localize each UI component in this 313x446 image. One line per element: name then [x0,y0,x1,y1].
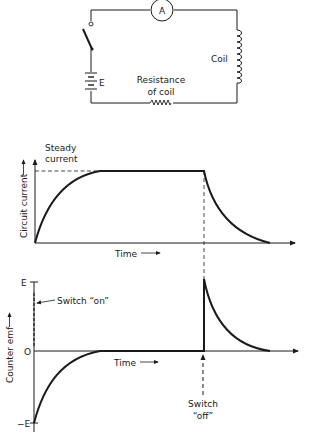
switch-off-label-line1: Switch [188,399,218,409]
resistor [150,100,171,105]
resistance-label-line2: of coil [148,87,175,97]
emf-xlabel: Time [113,358,136,368]
steady-label-line1: Steady [45,143,77,153]
current-curve [35,171,270,243]
ammeter-label: A [159,6,166,16]
diagram-canvas: A E Coil Resistance of coil Steady curre… [0,0,313,446]
emf-ylabel-group: Counter emf [5,313,15,383]
current-graph [35,160,295,282]
battery [85,73,97,89]
emf-tick-zero: O [24,347,31,357]
current-xlabel: Time [114,249,137,259]
emf-tick-top: E [21,278,27,288]
emf-tick-bottom: −E [17,419,31,429]
current-ylabel-group: Circuit current [19,160,29,238]
battery-label: E [99,78,105,88]
steady-label-line2: current [45,154,78,164]
switch-on-pointer [37,300,55,303]
coil-inductor [237,30,242,83]
emf-ylabel: Counter emf [5,326,15,383]
resistance-label-line1: Resistance [137,75,186,85]
switch-off-label-line2: “off” [193,411,213,421]
switch [83,22,94,51]
ammeter: A [151,0,173,21]
switch-on-label: Switch “on” [57,296,109,306]
coil-label: Coil [211,54,228,64]
current-ylabel: Circuit current [19,173,29,238]
